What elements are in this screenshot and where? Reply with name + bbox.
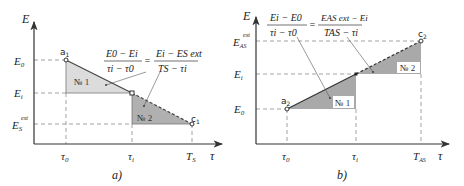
y-tick-E0: E0	[13, 55, 25, 69]
svg-text:Ei − E0: Ei − E0	[269, 12, 302, 23]
y-axis-label: E	[21, 12, 30, 26]
svg-text:Ei: Ei	[13, 87, 23, 101]
svg-text:ES: ES	[11, 119, 23, 133]
svg-text:E0: E0	[13, 55, 25, 69]
caption-a: a)	[112, 168, 122, 182]
x-tick-tau0: τ0	[282, 150, 290, 164]
svg-text:TAS − τi: TAS − τi	[324, 27, 358, 38]
caption-b: b)	[337, 168, 347, 182]
svg-text:=: =	[309, 19, 316, 30]
x-tick-tau0: τ0	[61, 150, 69, 164]
point-a1-label: a1	[60, 47, 70, 58]
y-tick-Ei: Ei	[13, 87, 23, 101]
region-2-label: № 2	[400, 63, 415, 73]
svg-text:ext: ext	[243, 32, 250, 38]
x-tick-TS: TS	[186, 150, 196, 164]
x-tick-taui: τi	[352, 150, 358, 164]
svg-text:EAS ext − Ei: EAS ext − Ei	[320, 13, 368, 23]
x-tick-TAS: TAS	[413, 150, 426, 163]
svg-text:Ei − ES ext: Ei − ES ext	[155, 48, 202, 59]
x-axis-label: τ	[210, 149, 215, 163]
svg-text:τi − τ0: τi − τ0	[270, 27, 297, 38]
svg-text:TS − τi: TS − τi	[158, 63, 187, 74]
formula-a: E0 − Ei τi − τ0 = Ei − ES ext TS − τi	[104, 48, 202, 74]
point-c1-label: c1	[191, 114, 200, 125]
diagram-canvas: № 1 № 2 E τ E0 Ei ES ext τ0 τi TS a1 c1 …	[0, 0, 464, 186]
formula-b: Ei − E0 τi − τ0 = EAS ext − Ei TAS − τi	[267, 12, 368, 38]
x-axis-label: τ	[438, 149, 443, 163]
svg-text:τi − τ0: τi − τ0	[107, 63, 134, 74]
point-c2-label: c2	[418, 29, 427, 40]
point-intermediate	[130, 91, 134, 95]
panel-b: № 1 № 2 E τ EAS ext Ei E0 τ0 τi TAS a2 c…	[232, 9, 449, 182]
point-intermediate	[355, 73, 358, 76]
x-tick-taui: τi	[128, 150, 134, 164]
y-tick-E0: E0	[233, 103, 245, 117]
y-axis-label: E	[242, 9, 251, 23]
point-a2-label: a2	[281, 96, 291, 107]
svg-text:=: =	[144, 55, 151, 66]
svg-text:ext: ext	[21, 115, 28, 121]
y-tick-EAS-ext: EAS ext	[232, 32, 250, 49]
y-tick-ES-ext: ES ext	[11, 115, 28, 133]
region-1-label: № 1	[74, 77, 89, 87]
region-1-label: № 1	[335, 98, 350, 108]
y-tick-Ei: Ei	[233, 68, 243, 82]
region-2-label: № 2	[137, 113, 152, 123]
point-a2	[285, 107, 289, 111]
point-a1	[64, 58, 68, 62]
svg-text:E0 − Ei: E0 − Ei	[105, 48, 138, 59]
panel-a: № 1 № 2 E τ E0 Ei ES ext τ0 τi TS a1 c1 …	[11, 12, 222, 182]
